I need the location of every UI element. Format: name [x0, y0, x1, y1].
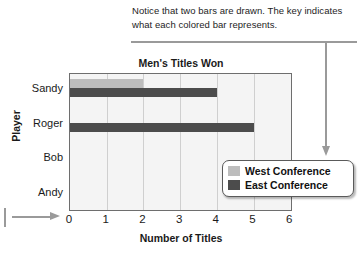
x-tick-label-4: 4	[206, 213, 226, 225]
y-tick-label-bob: Bob	[43, 151, 63, 163]
bar-sandy-west	[70, 79, 143, 88]
x-tick-label-6: 6	[279, 213, 299, 225]
x-tick-label-3: 3	[169, 213, 189, 225]
arrow-shaft	[325, 42, 327, 150]
y-tick-label-roger: Roger	[33, 117, 63, 129]
bar-sandy-east	[70, 88, 217, 97]
legend-item[interactable]: East Conference	[228, 178, 348, 192]
legend-item-label: East Conference	[245, 179, 328, 191]
pointer-shaft	[12, 216, 52, 218]
legend-item-label: West Conference	[245, 165, 331, 177]
chart-title: Men's Titles Won	[69, 57, 293, 69]
chart-legend[interactable]: West ConferenceEast Conference	[222, 160, 354, 197]
legend-swatch-icon	[228, 166, 240, 176]
y-tick-label-andy: Andy	[38, 186, 63, 198]
x-axis-title: Number of Titles	[69, 232, 293, 244]
x-tick-label-1: 1	[96, 213, 116, 225]
x-tick-label-0: 0	[59, 213, 79, 225]
legend-item[interactable]: West Conference	[228, 164, 348, 178]
legend-swatch-icon	[228, 180, 240, 190]
y-axis-title: Player	[10, 96, 22, 156]
y-tick-label-sandy: Sandy	[32, 82, 63, 94]
pointer-tail-bar	[4, 208, 6, 227]
x-tick-label-5: 5	[243, 213, 263, 225]
annotation-arrow-icon	[322, 42, 331, 159]
gridline	[217, 74, 218, 210]
x-tick-label-2: 2	[132, 213, 152, 225]
annotation-text: Notice that two bars are drawn. The key …	[132, 4, 357, 31]
bar-roger-east	[70, 123, 254, 132]
left-pointer-arrow-icon	[4, 208, 62, 228]
arrow-head	[322, 146, 330, 156]
